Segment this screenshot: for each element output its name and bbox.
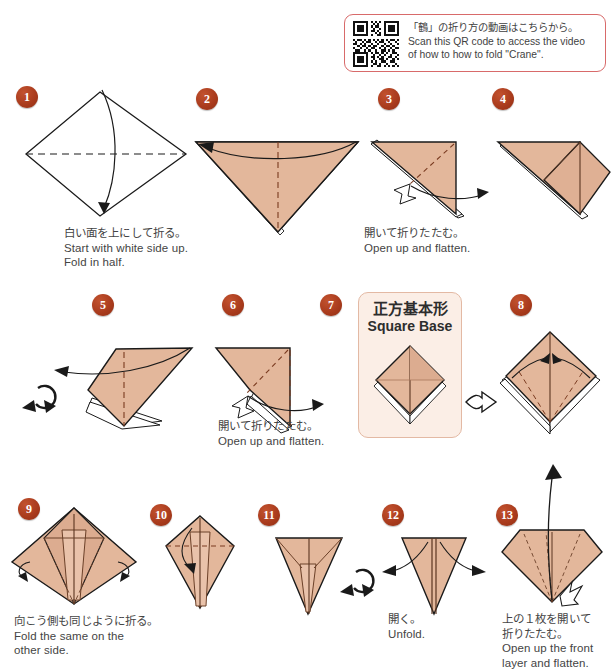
step-caption-3: 開いて折りたたむ。 Open up and flatten. <box>364 226 554 255</box>
step-diagram-8 <box>462 318 612 440</box>
step-caption-13: 上の１枚を開いて 折りたたむ。 Open up the front layer … <box>502 612 615 670</box>
qr-text-english: Scan this QR code to access the video of… <box>408 35 585 61</box>
square-base-title-jp: 正方基本形 <box>373 300 448 318</box>
step-diagram-10 <box>146 502 256 612</box>
step-badge-3: 3 <box>378 88 400 110</box>
step-badge-6: 6 <box>222 294 244 316</box>
step-diagram-2 <box>190 120 365 225</box>
step-diagram-5 <box>6 326 196 436</box>
step-diagram-7 <box>362 338 458 430</box>
step-diagram-9 <box>4 500 144 610</box>
step-badge-11: 11 <box>258 504 280 526</box>
qr-text-japanese: 「鶴」の折り方の動画はこちらから。 <box>408 21 585 34</box>
step-badge-4: 4 <box>492 88 514 110</box>
qr-code-panel: 「鶴」の折り方の動画はこちらから。 Scan this QR code to a… <box>344 14 606 72</box>
step-badge-12: 12 <box>382 504 404 526</box>
qr-code-icon <box>353 21 399 67</box>
step-diagram-12 <box>360 524 500 624</box>
step-diagram-1 <box>10 88 190 223</box>
step-caption-9: 向こう側も同じように折る。 Fold the same on the other… <box>14 614 194 658</box>
step-diagram-4 <box>484 120 614 220</box>
step-caption-1: 白い面を上にして折る。 Start with white side up. Fo… <box>64 226 244 270</box>
step-diagram-13 <box>490 456 615 616</box>
step-diagram-3 <box>364 118 489 218</box>
step-badge-7: 7 <box>320 294 342 316</box>
step-badge-5: 5 <box>92 294 114 316</box>
square-base-card: 正方基本形 Square Base <box>358 292 462 438</box>
turn-over-symbol <box>22 386 56 413</box>
square-base-title-en: Square Base <box>368 318 453 335</box>
step-caption-12: 開く。 Unfold. <box>388 612 508 641</box>
hollow-arrow-right <box>466 392 496 412</box>
step-badge-2: 2 <box>196 88 218 110</box>
step-badge-8: 8 <box>510 294 532 316</box>
